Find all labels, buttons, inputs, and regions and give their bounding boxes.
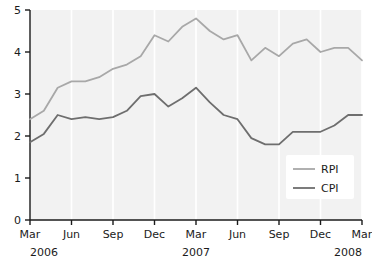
legend-background	[286, 155, 354, 199]
y-axis-tick-label: 5	[14, 4, 21, 17]
legend-label-rpi: RPI	[321, 163, 339, 176]
inflation-line-chart: 012345 MarJunSepDecMarJunSepDecMar200620…	[0, 0, 372, 269]
x-axis-year-label: 2006	[30, 246, 58, 259]
x-axis: MarJunSepDecMarJunSepDecMar200620072008	[20, 220, 372, 259]
x-axis-tick-label: Dec	[310, 228, 331, 241]
legend-label-cpi: CPI	[321, 182, 339, 195]
chart-canvas: 012345 MarJunSepDecMarJunSepDecMar200620…	[0, 0, 372, 269]
x-axis-tick-label: Jun	[228, 228, 246, 241]
x-axis-tick-label: Sep	[269, 228, 290, 241]
x-axis-tick-label: Jun	[62, 228, 80, 241]
y-axis-tick-label: 0	[14, 214, 21, 227]
x-axis-year-label: 2008	[334, 246, 362, 259]
y-axis-tick-label: 4	[14, 46, 21, 59]
x-axis-tick-label: Mar	[186, 228, 207, 241]
x-axis-tick-label: Dec	[144, 228, 165, 241]
x-axis-tick-label: Mar	[352, 228, 372, 241]
chart-legend: RPICPI	[286, 155, 354, 199]
y-axis: 012345	[14, 4, 30, 227]
x-axis-tick-label: Sep	[103, 228, 124, 241]
y-axis-tick-label: 3	[14, 88, 21, 101]
y-axis-tick-label: 1	[14, 172, 21, 185]
x-axis-tick-label: Mar	[20, 228, 41, 241]
x-axis-year-label: 2007	[182, 246, 210, 259]
y-axis-tick-label: 2	[14, 130, 21, 143]
